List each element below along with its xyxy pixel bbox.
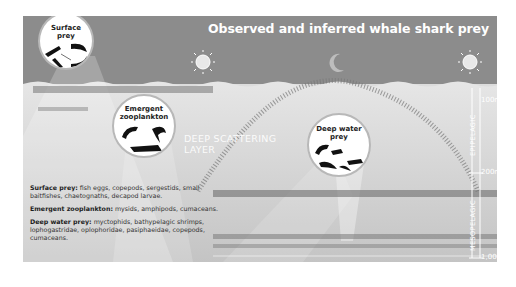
moon-icon: [330, 54, 344, 72]
legend-item-deep-water-prey: Deep water prey: myctophids, bathypelagi…: [30, 218, 220, 242]
deep-scattering-layer-label: DEEP SCATTERINGLAYER: [184, 133, 276, 155]
zooplankton-silhouettes-icon: [116, 121, 172, 155]
bubble-label: Deep waterprey: [309, 125, 369, 141]
legend-item-surface-prey: Surface prey: fish eggs, copepods, serge…: [30, 184, 220, 200]
epipelagic-zone-label: EPIPELAGIC: [469, 114, 477, 156]
bubble-label: Emergentzooplankton: [114, 105, 174, 121]
sun-icon: [458, 50, 482, 74]
whale-shark-prey-diagram: Observed and inferred whale shark prey S…: [23, 16, 497, 262]
deep-water-prey-bubble: Deep waterprey: [307, 113, 371, 177]
emergent-zooplankton-bubble: Emergentzooplankton: [112, 94, 176, 158]
bubble-label: Surfaceprey: [40, 24, 92, 40]
depth-mark-100m: 100m: [481, 96, 497, 104]
legend-item-emergent-zooplankton: Emergent zooplankton: mysids, amphipods,…: [30, 205, 220, 213]
mesopelagic-zone-label: MESOPELAGIC: [469, 200, 477, 251]
depth-mark-1000m: 1,000: [481, 253, 497, 261]
depth-mark-200m: 200m: [481, 168, 497, 176]
diagram-title: Observed and inferred whale shark prey: [208, 21, 489, 36]
prey-legend: Surface prey: fish eggs, copepods, serge…: [30, 184, 220, 247]
deep-water-prey-silhouettes-icon: [311, 141, 367, 175]
sun-icon: [191, 50, 215, 74]
